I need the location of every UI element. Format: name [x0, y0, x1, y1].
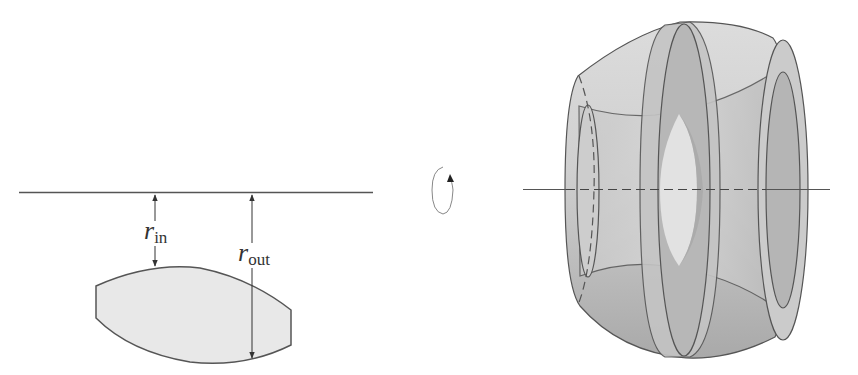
r-out-label: rout	[238, 238, 270, 269]
cross-section-region	[96, 267, 291, 363]
r-in-label: rin	[144, 216, 168, 247]
right-panel	[523, 22, 830, 358]
left-hole-rim	[577, 105, 599, 277]
rotation-arrow-icon	[432, 167, 454, 214]
diagram-canvas: rin rout	[0, 0, 858, 375]
left-panel: rin rout	[19, 193, 373, 364]
